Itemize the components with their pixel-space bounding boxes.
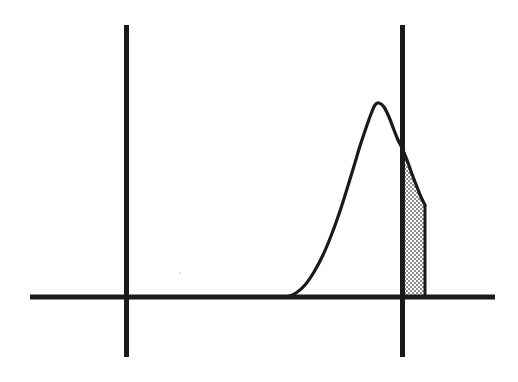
- figure-background: [0, 0, 518, 382]
- figure-canvas: [0, 0, 518, 382]
- scan-artifact-speck: [179, 272, 181, 274]
- distribution-tail-area-figure: [0, 0, 518, 382]
